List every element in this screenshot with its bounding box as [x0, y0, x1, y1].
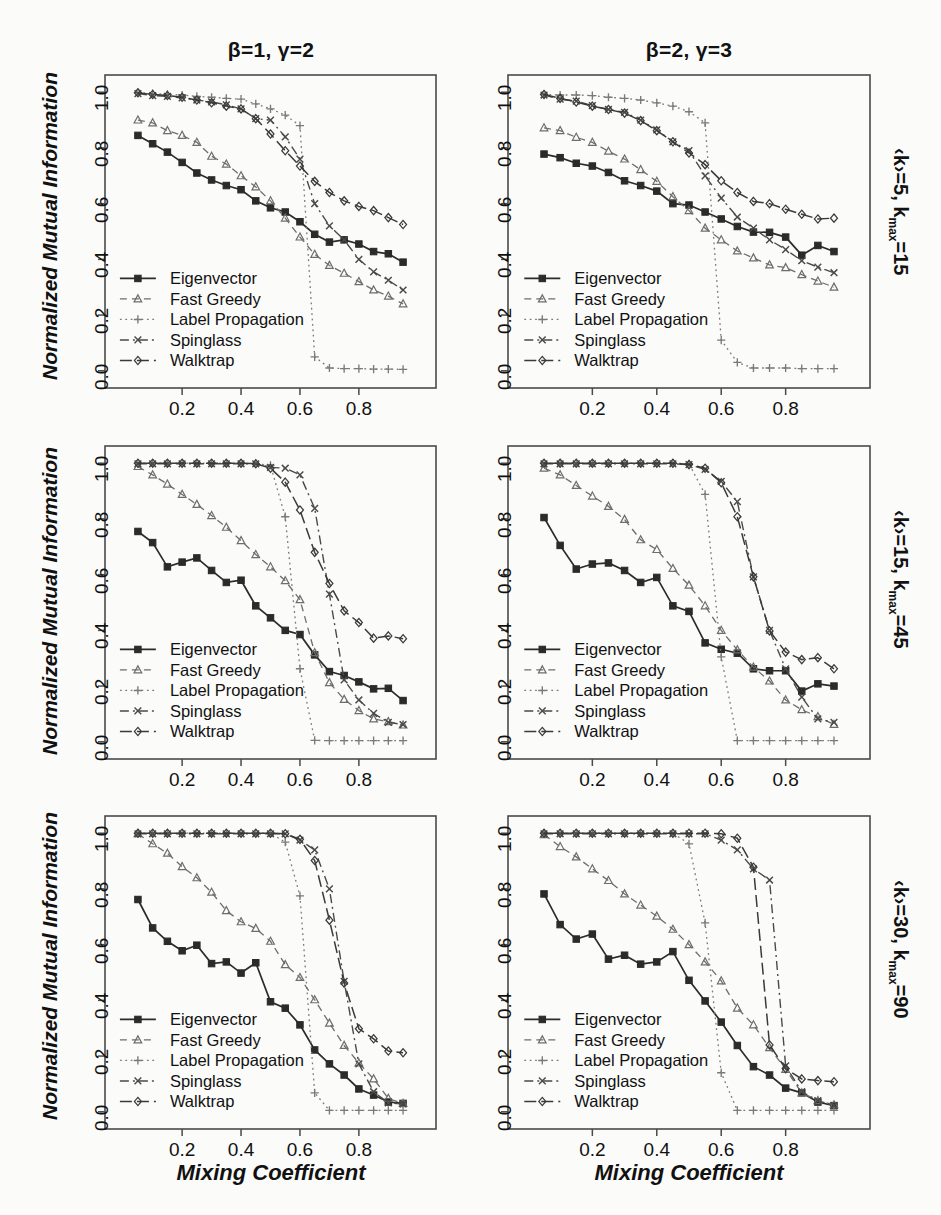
y-tick-label: 0.6 — [494, 196, 516, 222]
x-tick-label: 0.8 — [769, 398, 803, 420]
y-tick-label: 0.0 — [91, 734, 113, 760]
x-tick-label: 0.6 — [704, 1139, 738, 1161]
y-tick-label: 0.0 — [494, 1104, 516, 1130]
y-tick-label: 0.4 — [91, 623, 113, 649]
y-tick-label: 0.8 — [91, 512, 113, 538]
y-tick-label: 1.0 — [494, 85, 516, 111]
x-tick-label: 0.6 — [283, 398, 317, 420]
x-tick-label: 0.2 — [165, 1139, 199, 1161]
y-tick-label: 0.6 — [91, 567, 113, 593]
x-tick-label: 0.2 — [575, 1139, 609, 1161]
y-tick-label: 0.4 — [91, 252, 113, 278]
x-tick-label: 0.8 — [342, 398, 376, 420]
y-tick-label: 0.8 — [494, 882, 516, 908]
y-tick-label: 0.0 — [494, 363, 516, 389]
y-tick-label: 0.4 — [494, 993, 516, 1019]
y-tick-label: 0.0 — [494, 734, 516, 760]
y-tick-label: 1.0 — [91, 456, 113, 482]
x-tick-label: 0.4 — [224, 1139, 258, 1161]
x-tick-label: 0.4 — [640, 1139, 674, 1161]
x-tick-label: 0.2 — [575, 769, 609, 791]
x-tick-label: 0.4 — [640, 769, 674, 791]
y-tick-label: 0.8 — [91, 141, 113, 167]
y-tick-label: 1.0 — [494, 826, 516, 852]
y-tick-label: 0.6 — [91, 196, 113, 222]
x-tick-label: 0.6 — [704, 398, 738, 420]
y-tick-label: 0.6 — [494, 567, 516, 593]
y-tick-label: 0.6 — [91, 937, 113, 963]
y-tick-label: 0.2 — [91, 1049, 113, 1075]
y-tick-label: 0.8 — [91, 882, 113, 908]
x-tick-label: 0.4 — [640, 398, 674, 420]
y-tick-label: 1.0 — [91, 826, 113, 852]
y-tick-label: 0.4 — [494, 623, 516, 649]
x-tick-label: 0.8 — [342, 769, 376, 791]
y-tick-label: 0.2 — [494, 679, 516, 705]
figure-panel-grid: β=1, γ=2 β=2, γ=3 ‹k›=5, kmax=15 ‹k›=15,… — [0, 0, 941, 1215]
y-tick-label: 0.0 — [91, 1104, 113, 1130]
x-tick-label: 0.6 — [704, 769, 738, 791]
y-tick-label: 0.4 — [91, 993, 113, 1019]
x-tick-label: 0.4 — [224, 398, 258, 420]
tick-labels-layer: 0.20.40.60.80.00.20.40.60.81.00.20.40.60… — [0, 0, 941, 1215]
y-tick-label: 0.2 — [91, 679, 113, 705]
y-tick-label: 0.0 — [91, 363, 113, 389]
y-tick-label: 0.2 — [494, 308, 516, 334]
y-tick-label: 1.0 — [494, 456, 516, 482]
x-tick-label: 0.8 — [769, 1139, 803, 1161]
y-tick-label: 0.6 — [494, 937, 516, 963]
y-tick-label: 0.2 — [91, 308, 113, 334]
x-tick-label: 0.8 — [769, 769, 803, 791]
y-tick-label: 0.8 — [494, 141, 516, 167]
x-tick-label: 0.2 — [165, 398, 199, 420]
x-tick-label: 0.4 — [224, 769, 258, 791]
y-tick-label: 0.8 — [494, 512, 516, 538]
x-tick-label: 0.8 — [342, 1139, 376, 1161]
y-tick-label: 0.4 — [494, 252, 516, 278]
x-tick-label: 0.6 — [283, 769, 317, 791]
y-tick-label: 1.0 — [91, 85, 113, 111]
x-tick-label: 0.2 — [165, 769, 199, 791]
x-tick-label: 0.2 — [575, 398, 609, 420]
x-tick-label: 0.6 — [283, 1139, 317, 1161]
y-tick-label: 0.2 — [494, 1049, 516, 1075]
